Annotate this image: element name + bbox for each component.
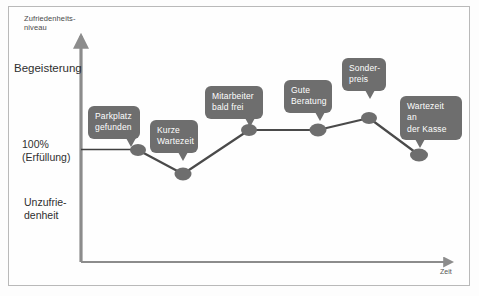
y-axis-title: Zufriedenheits- niveau <box>24 14 76 33</box>
satisfaction-chart-figure: Zufriedenheits- niveau Begeisterung 100%… <box>0 0 479 296</box>
data-point-kasse[interactable] <box>410 149 428 162</box>
y-axis-label-begeisterung: Begeisterung <box>14 61 82 75</box>
data-point-sonderpreis[interactable] <box>361 112 377 124</box>
x-axis-title: Zeit <box>440 268 452 277</box>
callout-label-wartezeit: Kurze Wartezeit <box>157 125 194 146</box>
chart-canvas <box>0 0 479 296</box>
callout-label-sonderpreis: Sonder- preis <box>349 63 380 84</box>
callout-tail-mitarbeiter <box>245 118 255 127</box>
data-point-wartezeit[interactable] <box>175 168 192 181</box>
callout-tail-beratung <box>315 112 325 121</box>
callout-bubble-sonderpreis[interactable]: Sonder- preis <box>342 58 386 91</box>
callout-tail-sonderpreis <box>365 90 375 99</box>
y-axis-label-hundred-percent: 100% (Erfüllung) <box>22 138 70 164</box>
callout-bubble-mitarbeiter[interactable]: Mitarbeiter bald frei <box>205 86 263 119</box>
callout-label-beratung: Gute Beratung <box>291 85 327 106</box>
callout-tail-kasse <box>415 139 425 148</box>
callout-bubble-parkplatz[interactable]: Parkplatz gefunden <box>88 106 140 139</box>
callout-tail-parkplatz <box>126 138 136 147</box>
callout-label-parkplatz: Parkplatz gefunden <box>95 111 132 132</box>
callout-label-kasse: Wartezeit an der Kasse <box>407 101 447 134</box>
callout-bubble-kasse[interactable]: Wartezeit an der Kasse <box>400 96 462 140</box>
callout-bubble-wartezeit[interactable]: Kurze Wartezeit <box>150 120 198 153</box>
callout-bubble-beratung[interactable]: Gute Beratung <box>284 80 332 113</box>
data-point-beratung[interactable] <box>310 124 327 137</box>
callout-tail-wartezeit <box>178 152 188 161</box>
y-axis-label-unzufriedenheit: Unzufrie- denheit <box>24 196 67 222</box>
callout-label-mitarbeiter: Mitarbeiter bald frei <box>212 91 254 112</box>
